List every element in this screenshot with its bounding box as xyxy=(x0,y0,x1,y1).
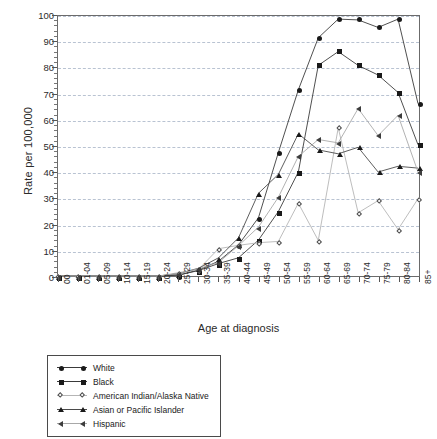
x-tick-label-05-09: 05-09 xyxy=(102,262,112,284)
legend-marker-icon xyxy=(54,417,90,431)
y-tick-label-0: 0 xyxy=(24,272,54,283)
x-tick-label-01-04: 01-04 xyxy=(82,262,92,284)
series-lines xyxy=(58,16,419,276)
x-tick-label-25-29: 25-29 xyxy=(182,262,192,284)
x-tick-label-55-59: 55-59 xyxy=(302,262,312,284)
legend-label: American Indian/Alaska Native xyxy=(90,391,209,401)
x-tick-mark-00 xyxy=(58,277,59,282)
y-tick-label-50: 50 xyxy=(24,141,54,152)
x-tick-mark-25-29 xyxy=(178,277,179,282)
x-tick-mark-85+ xyxy=(419,277,420,282)
x-tick-mark-40-44 xyxy=(239,277,240,282)
y-tick-label-20: 20 xyxy=(24,219,54,230)
line-series-4 xyxy=(59,109,418,276)
legend-label: Asian or Pacific Islander xyxy=(90,405,184,415)
line-series-3 xyxy=(59,134,418,276)
x-tick-label-65-69: 65-69 xyxy=(342,262,352,284)
line-series-2 xyxy=(59,128,418,276)
x-tick-label-10-14: 10-14 xyxy=(122,262,132,284)
legend-item-1: Black xyxy=(54,375,214,389)
x-tick-label-15-19: 15-19 xyxy=(142,262,152,284)
plot-area xyxy=(57,15,420,277)
legend-marker-icon xyxy=(54,403,90,417)
legend-label: Hispanic xyxy=(90,419,126,429)
x-tick-label-60-64: 60-64 xyxy=(322,262,332,284)
y-tick-label-10: 10 xyxy=(24,245,54,256)
legend-marker-icon xyxy=(54,375,90,389)
x-tick-mark-30-34 xyxy=(198,277,199,282)
x-tick-label-85+: 85+ xyxy=(423,270,433,284)
chart-figure: Rate per 100,000 0102030405060708090100 … xyxy=(0,0,437,439)
legend-label: Black xyxy=(90,377,114,387)
y-tick-label-60: 60 xyxy=(24,114,54,125)
x-tick-mark-75-79 xyxy=(379,277,380,282)
x-tick-mark-65-69 xyxy=(339,277,340,282)
chart-legend: WhiteBlackAmerican Indian/Alaska NativeA… xyxy=(47,355,221,437)
x-tick-mark-60-64 xyxy=(319,277,320,282)
x-tick-label-35-39: 35-39 xyxy=(222,262,232,284)
x-tick-label-80-84: 80-84 xyxy=(402,262,412,284)
y-tick-label-100: 100 xyxy=(24,10,54,21)
legend-item-3: Asian or Pacific Islander xyxy=(54,403,214,417)
x-tick-mark-45-49 xyxy=(259,277,260,282)
x-tick-mark-70-74 xyxy=(359,277,360,282)
y-tick-label-30: 30 xyxy=(24,193,54,204)
x-tick-label-20-24: 20-24 xyxy=(162,262,172,284)
y-tick-label-90: 90 xyxy=(24,36,54,47)
x-tick-mark-15-19 xyxy=(138,277,139,282)
x-tick-label-50-54: 50-54 xyxy=(282,262,292,284)
x-tick-mark-35-39 xyxy=(218,277,219,282)
legend-item-4: Hispanic xyxy=(54,417,214,431)
x-tick-label-75-79: 75-79 xyxy=(382,262,392,284)
x-tick-label-00: 00 xyxy=(62,275,72,284)
x-tick-mark-10-14 xyxy=(118,277,119,282)
legend-label: White xyxy=(90,363,115,373)
x-tick-mark-20-24 xyxy=(158,277,159,282)
x-tick-mark-80-84 xyxy=(399,277,400,282)
x-tick-label-45-49: 45-49 xyxy=(262,262,272,284)
y-tick-mark-0 xyxy=(52,277,57,278)
y-tick-label-80: 80 xyxy=(24,62,54,73)
legend-item-0: White xyxy=(54,361,214,375)
x-tick-mark-55-59 xyxy=(299,277,300,282)
x-tick-mark-50-54 xyxy=(279,277,280,282)
x-tick-mark-05-09 xyxy=(98,277,99,282)
legend-marker-icon xyxy=(54,361,90,375)
x-tick-label-30-34: 30-34 xyxy=(202,262,212,284)
x-axis-title: Age at diagnosis xyxy=(57,322,420,334)
legend-item-2: American Indian/Alaska Native xyxy=(54,389,214,403)
x-tick-label-40-44: 40-44 xyxy=(242,262,252,284)
x-tick-mark-01-04 xyxy=(78,277,79,282)
y-tick-label-70: 70 xyxy=(24,88,54,99)
line-series-1 xyxy=(59,52,418,276)
legend-marker-icon xyxy=(54,389,90,403)
y-tick-label-40: 40 xyxy=(24,167,54,178)
x-tick-label-70-74: 70-74 xyxy=(362,262,372,284)
